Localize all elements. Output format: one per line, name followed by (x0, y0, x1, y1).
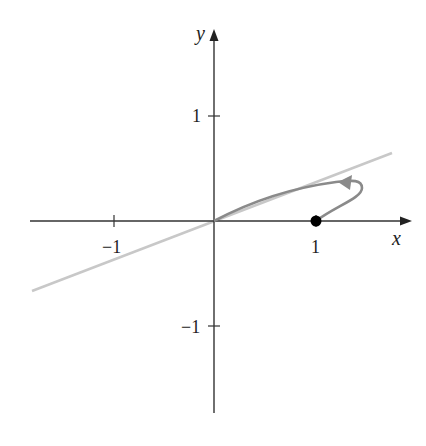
diagram-canvas: x y −1 1 1 −1 (0, 0, 426, 446)
y-axis-arrow-icon (210, 29, 219, 41)
curve-direction-arrow-icon (338, 175, 352, 190)
x-axis-label: x (391, 227, 401, 249)
tangent-line (32, 153, 392, 291)
x-tick-label-1: 1 (311, 237, 320, 257)
y-tick-label-neg1: −1 (181, 317, 200, 337)
parametric-curve (214, 181, 362, 221)
y-axis-label: y (194, 22, 205, 45)
x-axis-arrow-icon (400, 217, 412, 226)
parametric-curve-plot: x y −1 1 1 −1 (0, 0, 426, 446)
x-tick-label-neg1: −1 (102, 237, 121, 257)
y-tick-label-1: 1 (192, 106, 201, 126)
start-point (311, 216, 322, 227)
